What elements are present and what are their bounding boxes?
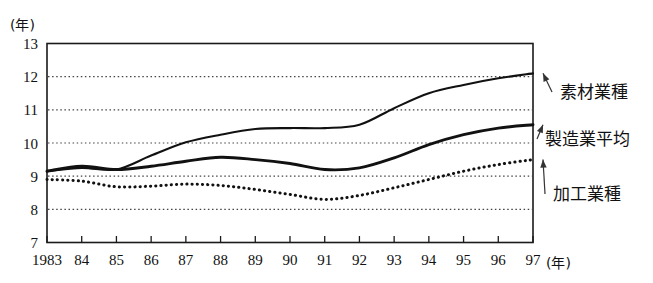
x-tick-label: 91	[317, 252, 332, 268]
x-tick-label: 90	[283, 252, 298, 268]
x-axis-unit-label: (年)	[546, 255, 571, 271]
y-tick-label: 8	[31, 202, 39, 218]
x-tick-label: 92	[352, 252, 367, 268]
x-tick-label-group: 19838485868788899091929394959697	[32, 252, 541, 268]
series-line	[47, 73, 533, 171]
series-annotation-label: 加工業種	[553, 184, 621, 204]
series-line	[47, 160, 533, 200]
y-tick-label-group: 78910111213	[23, 36, 39, 251]
x-tick-label: 88	[213, 252, 228, 268]
x-tick-label: 1983	[32, 252, 62, 268]
y-axis-unit-label: (年)	[10, 17, 35, 33]
y-tick-label: 11	[24, 102, 38, 118]
y-tick-label: 9	[31, 169, 39, 185]
annotation-group: 素材業種製造業平均加工業種	[537, 73, 630, 204]
x-tick-group	[47, 236, 533, 243]
x-tick-label: 94	[421, 252, 437, 268]
y-tick-label: 13	[23, 36, 38, 52]
x-tick-label: 85	[109, 252, 124, 268]
series-group	[47, 73, 533, 199]
annotation-arrow-head	[543, 73, 549, 82]
annotation-arrow-head	[537, 125, 543, 134]
y-tick-label: 12	[23, 69, 38, 85]
series-line	[47, 125, 533, 171]
chart-svg: 78910111213 1983848586878889909192939495…	[0, 0, 653, 283]
x-tick-label: 87	[178, 252, 194, 268]
line-chart: 78910111213 1983848586878889909192939495…	[0, 0, 653, 283]
y-tick-label: 7	[31, 235, 39, 251]
x-tick-label: 84	[74, 252, 90, 268]
grid-group	[48, 77, 532, 210]
x-tick-label: 96	[491, 252, 507, 268]
x-tick-label: 97	[526, 252, 542, 268]
x-tick-label: 93	[387, 252, 402, 268]
y-tick-label: 10	[23, 136, 38, 152]
x-tick-label: 89	[248, 252, 263, 268]
x-tick-label: 95	[456, 252, 471, 268]
series-annotation-label: 素材業種	[560, 82, 628, 102]
series-annotation-label: 製造業平均	[545, 129, 630, 149]
x-tick-label: 86	[144, 252, 160, 268]
annotation-arrow-head	[540, 160, 546, 168]
